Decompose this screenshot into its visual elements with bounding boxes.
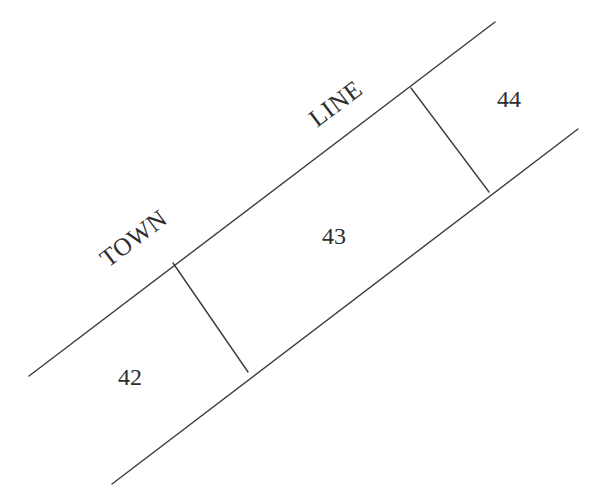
road-label-line: LINE	[304, 75, 367, 132]
parcel-label-42: 42	[118, 364, 142, 390]
town-line-upper-boundary	[29, 22, 495, 376]
road-label-town: TOWN	[95, 204, 172, 272]
divider-between-42-and-43	[173, 263, 248, 372]
plat-diagram: TOWN LINE 42 43 44	[0, 0, 597, 492]
lower-boundary-line	[112, 129, 578, 484]
parcel-label-44: 44	[497, 86, 521, 112]
plat-drawing-canvas: TOWN LINE 42 43 44	[0, 0, 597, 492]
parcel-label-43: 43	[322, 223, 346, 249]
divider-between-43-and-44	[411, 88, 489, 192]
